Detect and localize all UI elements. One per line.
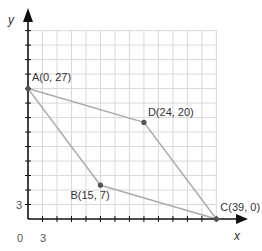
- origin-tick-label: 0: [17, 232, 23, 244]
- point-label-A: A(0, 27): [32, 71, 71, 83]
- point-D: [141, 120, 146, 125]
- y-axis-label: y: [7, 13, 15, 27]
- point-B: [98, 183, 103, 188]
- point-label-B: B(15, 7): [70, 189, 109, 201]
- point-A: [25, 86, 30, 91]
- y-tick-label-3: 3: [16, 199, 22, 211]
- y-axis-arrow-icon: [23, 8, 33, 22]
- point-C: [214, 216, 219, 221]
- x-axis-arrow-icon: [236, 214, 248, 224]
- x-tick-label-3: 3: [40, 232, 46, 244]
- chart: A(0, 27)B(15, 7)C(39, 0)D(24, 20) y x 0 …: [0, 0, 262, 251]
- x-axis-label: x: [233, 229, 241, 243]
- point-label-D: D(24, 20): [148, 106, 194, 118]
- point-label-C: C(39, 0): [220, 201, 260, 213]
- grid: [28, 31, 216, 219]
